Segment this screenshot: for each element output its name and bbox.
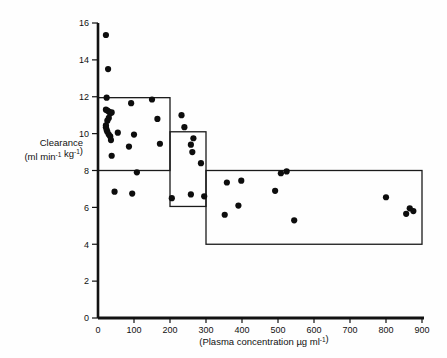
data-point: [108, 137, 114, 143]
y-axis-title: Clearance (ml min-1 kg-1): [24, 137, 83, 162]
data-point: [134, 169, 140, 175]
data-point: [238, 178, 244, 184]
figure-panel: 0246810121416 01002003004005006007008009…: [0, 0, 447, 358]
data-point: [154, 116, 160, 122]
data-point: [235, 202, 241, 208]
data-point: [284, 168, 290, 174]
data-point: [178, 112, 184, 118]
x-tick-label: 200: [162, 325, 177, 335]
data-points-layer: [103, 32, 417, 223]
data-point: [109, 109, 115, 115]
x-tick-label: 100: [126, 325, 141, 335]
x-tick-label: 900: [414, 325, 429, 335]
data-point: [188, 142, 194, 148]
x-tick-label: 500: [270, 325, 285, 335]
y-tick-label: 8: [84, 166, 89, 176]
data-point: [105, 66, 111, 72]
data-point: [103, 32, 109, 38]
y-tick-label: 2: [84, 276, 89, 286]
data-point: [224, 179, 230, 185]
x-tick-label: 800: [378, 325, 393, 335]
data-point: [104, 95, 110, 101]
data-point: [201, 193, 207, 199]
data-point: [149, 96, 155, 102]
y-tick-label: 14: [79, 55, 89, 65]
range-box-layer: [98, 98, 422, 245]
data-point: [188, 191, 194, 197]
data-point: [383, 194, 389, 200]
data-point: [291, 217, 297, 223]
y-axis-title-line1: Clearance: [40, 137, 83, 148]
x-tick-label: 700: [342, 325, 357, 335]
y-tick-label: 0: [84, 313, 89, 323]
data-point: [169, 195, 175, 201]
data-point: [128, 100, 134, 106]
data-point: [131, 131, 137, 137]
y-tick-label: 12: [79, 92, 89, 102]
data-point: [129, 190, 135, 196]
data-point: [181, 124, 187, 130]
x-tick-label: 0: [95, 325, 100, 335]
scatter-plot: 0246810121416 01002003004005006007008009…: [0, 0, 447, 358]
y-axis-ticks: 0246810121416: [79, 18, 98, 323]
y-tick-label: 6: [84, 203, 89, 213]
data-point: [190, 135, 196, 141]
y-tick-label: 4: [84, 240, 89, 250]
data-point: [410, 208, 416, 214]
y-tick-label: 16: [79, 18, 89, 28]
x-tick-label: 300: [198, 325, 213, 335]
x-tick-label: 600: [306, 325, 321, 335]
data-point: [272, 188, 278, 194]
x-axis-ticks: 0100200300400500600700800900: [95, 318, 429, 335]
data-point: [278, 170, 284, 176]
x-tick-label: 400: [234, 325, 249, 335]
data-point: [222, 212, 228, 218]
data-point: [157, 141, 163, 147]
data-point: [109, 153, 115, 159]
data-point: [115, 130, 121, 136]
data-point: [403, 211, 409, 217]
data-point: [111, 189, 117, 195]
data-point: [126, 143, 132, 149]
data-point: [189, 149, 195, 155]
data-point: [198, 160, 204, 166]
